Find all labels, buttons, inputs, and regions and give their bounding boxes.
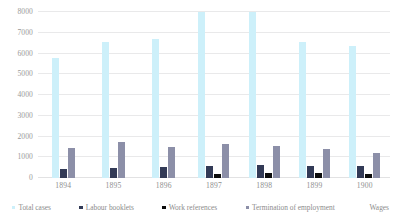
bar-group	[189, 12, 239, 178]
legend-item-total[interactable]: Total cases	[12, 203, 51, 212]
bar-group	[139, 12, 189, 178]
bar-booklets[interactable]	[357, 166, 364, 178]
x-axis-tick-label: 1900	[340, 181, 390, 190]
bar-booklets[interactable]	[60, 169, 67, 178]
bar-group	[239, 12, 289, 178]
legend-swatch-icon	[79, 206, 82, 209]
x-axis-tick-label: 1897	[189, 181, 239, 190]
y-axis-tick-label: 2000	[17, 131, 33, 140]
bar-termination[interactable]	[273, 146, 280, 178]
x-axis-tick-label: 1898	[239, 181, 289, 190]
legend-label: Termination of employment	[252, 203, 335, 212]
legend-swatch-icon	[162, 206, 165, 209]
x-axis-tick-label: 1899	[289, 181, 339, 190]
y-axis-tick-label: 7000	[17, 27, 33, 36]
x-axis-tick-label: 1894	[38, 181, 88, 190]
legend-swatch-icon	[12, 206, 15, 209]
bar-workref[interactable]	[365, 174, 372, 178]
bar-chart: 010002000300040005000600070008000 189418…	[0, 0, 397, 222]
y-axis-tick-label: 0	[29, 173, 33, 182]
bar-termination[interactable]	[118, 142, 125, 178]
x-axis-tick-label: 1895	[88, 181, 138, 190]
legend-item-booklets[interactable]: Labour booklets	[79, 203, 134, 212]
legend-label: Wages	[369, 203, 389, 212]
bar-group	[289, 12, 339, 178]
bar-total[interactable]	[152, 39, 159, 178]
y-axis-tick-label: 4000	[17, 90, 33, 99]
bar-total[interactable]	[102, 42, 109, 178]
bar-group	[38, 12, 88, 178]
bar-groups	[38, 12, 390, 178]
legend-label: Work references	[169, 203, 217, 212]
plot-area: 010002000300040005000600070008000	[38, 12, 390, 178]
bar-booklets[interactable]	[206, 166, 213, 178]
legend-label: Total cases	[18, 203, 51, 212]
legend-swatch-icon	[363, 206, 366, 209]
bar-total[interactable]	[249, 12, 256, 178]
bar-booklets[interactable]	[110, 168, 117, 178]
legend-swatch-icon	[246, 206, 249, 209]
y-axis-tick-label: 8000	[17, 7, 33, 16]
legend-item-workref[interactable]: Work references	[162, 203, 217, 212]
legend-label: Labour booklets	[86, 203, 134, 212]
bar-total[interactable]	[198, 12, 205, 178]
bar-group	[340, 12, 390, 178]
y-axis-tick-label: 3000	[17, 110, 33, 119]
x-axis-labels: 1894189518961897189818991900	[38, 181, 390, 190]
bar-termination[interactable]	[68, 148, 75, 178]
x-axis-tick-label: 1896	[139, 181, 189, 190]
bar-workref[interactable]	[315, 173, 322, 178]
bar-termination[interactable]	[222, 144, 229, 178]
bar-termination[interactable]	[373, 153, 380, 178]
bar-total[interactable]	[52, 58, 59, 178]
bar-termination[interactable]	[323, 149, 330, 178]
bar-booklets[interactable]	[257, 165, 264, 178]
bar-workref[interactable]	[265, 173, 272, 178]
bar-total[interactable]	[299, 42, 306, 178]
bar-group	[88, 12, 138, 178]
y-axis-tick-label: 1000	[17, 152, 33, 161]
bar-booklets[interactable]	[160, 167, 167, 178]
chart-legend: Total casesLabour bookletsWork reference…	[8, 203, 393, 212]
legend-item-termination[interactable]: Termination of employment	[246, 203, 335, 212]
bar-booklets[interactable]	[307, 166, 314, 178]
bar-total[interactable]	[349, 46, 356, 178]
bar-termination[interactable]	[168, 147, 175, 178]
bar-workref[interactable]	[214, 174, 221, 178]
y-axis-tick-label: 5000	[17, 69, 33, 78]
y-axis-tick-label: 6000	[17, 48, 33, 57]
legend-item-wages[interactable]: Wages	[363, 203, 389, 212]
